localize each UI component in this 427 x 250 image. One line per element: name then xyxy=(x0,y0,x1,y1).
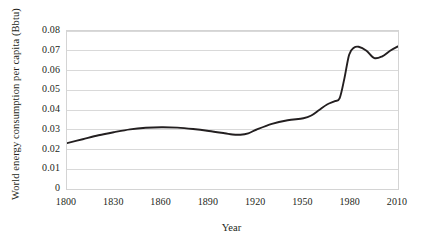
plot-area xyxy=(66,30,399,190)
x-axis-tick-labels: 18001830186018901920195019802010 xyxy=(0,196,427,212)
x-tick-label: 2010 xyxy=(367,196,427,208)
chart-figure: World energy consumption per capita (Bbt… xyxy=(0,0,427,250)
y-tick-label: 0.01 xyxy=(20,163,60,173)
y-tick-label: 0.05 xyxy=(20,84,60,94)
chart-canvas xyxy=(67,31,398,189)
y-tick-label: 0.08 xyxy=(20,25,60,35)
y-axis-tick-labels: 00.010.020.030.040.050.060.070.08 xyxy=(20,0,60,250)
x-axis-title: Year xyxy=(66,222,397,233)
y-tick-label: 0.03 xyxy=(20,124,60,134)
y-tick-label: 0 xyxy=(20,183,60,193)
y-tick-label: 0.04 xyxy=(20,104,60,114)
y-tick-label: 0.02 xyxy=(20,144,60,154)
y-tick-label: 0.07 xyxy=(20,45,60,55)
series-line xyxy=(67,46,398,143)
y-tick-label: 0.06 xyxy=(20,65,60,75)
data-series-group xyxy=(67,46,398,143)
